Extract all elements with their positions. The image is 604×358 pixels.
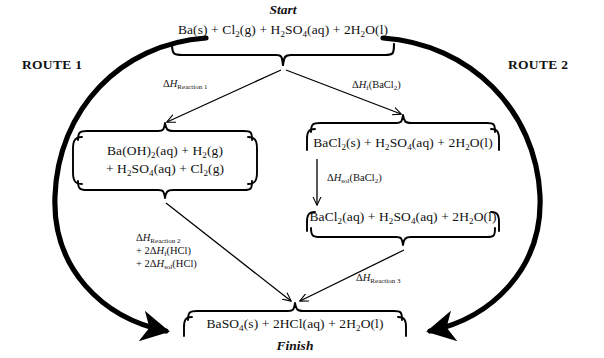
left-box-right-curve xyxy=(248,137,257,184)
finish-marker: Finish xyxy=(277,338,314,354)
hess-cycle-diagram: Start Ba(s) + Cl2(g) + H2SO4(aq) + 2H2O(… xyxy=(0,0,604,358)
route-1-label: ROUTE 1 xyxy=(22,57,82,73)
enthalpy-reaction-2-line-3: + 2ΔHsol(HCl) xyxy=(136,258,197,273)
bacl2-aqueous-bottom-brace xyxy=(311,228,495,245)
enthalpy-reaction-1-label: ΔHReaction 1 xyxy=(163,78,208,93)
enthalpy-reaction-3-label: ΔHReaction 3 xyxy=(356,272,401,287)
route2-intermediate-aqueous-equation: BaCl2(aq) + H2SO4(aq) + 2H2O(l) xyxy=(309,209,496,229)
enthalpy-solution-bacl2-label: ΔHsol(BaCl2) xyxy=(327,172,382,187)
start-equation: Ba(s) + Cl2(g) + H2SO4(aq) + 2H2O(l) xyxy=(178,22,388,42)
left-box-bottom-brace xyxy=(78,181,252,198)
route1-intermediate-line-2: + H2SO4(aq) + Cl2(g) xyxy=(106,161,224,181)
route2-outer-arc xyxy=(383,38,540,331)
route1-intermediate-line-1: Ba(OH)2(aq) + H2(g) xyxy=(107,143,223,163)
start-marker: Start xyxy=(269,2,296,18)
route2-intermediate-solid-equation: BaCl2(s) + H2SO4(aq) + 2H2O(l) xyxy=(313,135,493,155)
left-box-left-curve xyxy=(73,137,82,184)
start-brace xyxy=(172,44,394,65)
bacl2-solid-top-brace xyxy=(311,115,495,132)
enthalpy-formation-bacl2-label: ΔHf(BaCl2) xyxy=(352,79,401,94)
left-box-top-brace xyxy=(78,123,252,140)
finish-equation: BaSO4(s) + 2HCl(aq) + 2H2O(l) xyxy=(206,316,383,336)
diagram-canvas xyxy=(0,0,604,358)
route-2-label: ROUTE 2 xyxy=(508,57,568,73)
